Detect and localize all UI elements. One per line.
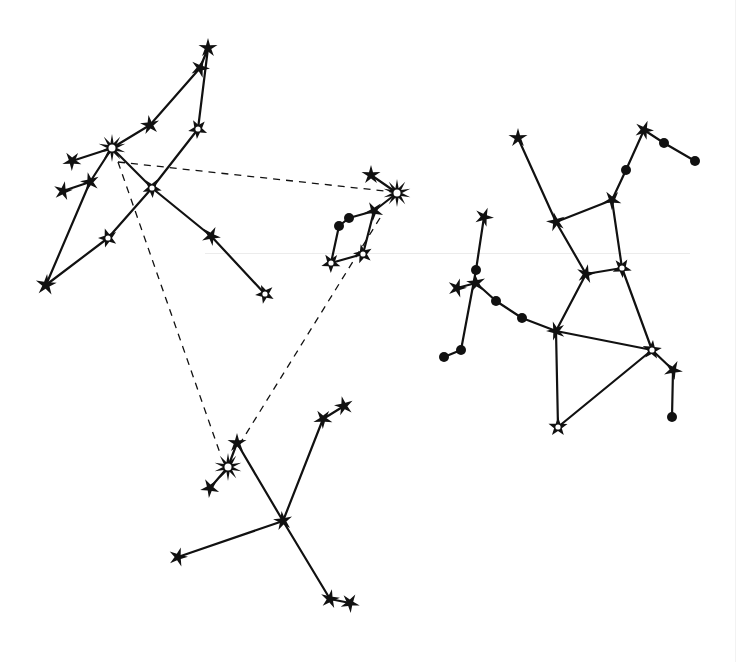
faint-star-dot-icon bbox=[667, 412, 677, 422]
variable-star-center bbox=[360, 251, 365, 256]
constellation-line bbox=[556, 274, 586, 331]
star-icon bbox=[476, 208, 495, 227]
faint-star-dot-icon bbox=[471, 265, 481, 275]
faint-star-dot-icon bbox=[491, 296, 501, 306]
faint-star-dot-icon bbox=[690, 156, 700, 166]
constellation-line bbox=[211, 236, 265, 294]
constellation-line bbox=[152, 129, 198, 188]
constellation-line bbox=[237, 443, 283, 521]
faint-star-dot-icon bbox=[439, 352, 449, 362]
star-icon bbox=[466, 273, 485, 292]
star-icon bbox=[577, 264, 596, 283]
star-icon bbox=[273, 511, 292, 530]
star-icon bbox=[313, 411, 332, 429]
variable-star-center bbox=[105, 235, 110, 240]
star-icon bbox=[664, 361, 683, 380]
constellation-line bbox=[522, 318, 556, 331]
constellation-line bbox=[556, 331, 558, 427]
faint-star-dot-icon bbox=[344, 213, 354, 223]
constellation-line bbox=[672, 370, 673, 417]
faint-star-dot-icon bbox=[517, 313, 527, 323]
constellation-line bbox=[108, 188, 152, 238]
star-chart bbox=[0, 0, 738, 662]
variable-star-center bbox=[149, 185, 154, 190]
star-icon bbox=[449, 278, 467, 297]
bright-star-center bbox=[109, 145, 116, 152]
star-icon bbox=[636, 121, 654, 140]
constellation-line bbox=[626, 130, 644, 170]
constellation-lines bbox=[46, 48, 695, 603]
constellation-line bbox=[556, 331, 652, 350]
constellation-line bbox=[112, 148, 152, 188]
faint-star-dot-icon bbox=[621, 165, 631, 175]
constellation-line bbox=[476, 217, 484, 270]
bright-star-center bbox=[225, 464, 232, 471]
constellation-line bbox=[556, 200, 612, 222]
variable-star-center bbox=[262, 291, 267, 296]
star-icon bbox=[546, 212, 565, 231]
faint-star-dot-icon bbox=[659, 138, 669, 148]
faint-star-dot-icon bbox=[456, 345, 466, 355]
bright-star-center bbox=[394, 190, 401, 197]
constellation-line bbox=[622, 268, 652, 350]
asterism-dashed-line bbox=[118, 162, 221, 456]
star-icon bbox=[334, 396, 353, 415]
star-icon bbox=[62, 153, 81, 171]
star-icon bbox=[228, 433, 247, 451]
variable-star-center bbox=[649, 347, 654, 352]
variable-star-center bbox=[555, 424, 560, 429]
star-icon bbox=[341, 595, 360, 614]
constellation-line bbox=[150, 68, 200, 125]
constellation-line bbox=[283, 521, 330, 599]
faint-star-dot-icon bbox=[334, 221, 344, 231]
constellation-line bbox=[178, 521, 283, 557]
constellation-line bbox=[152, 188, 211, 236]
constellation-line bbox=[518, 138, 556, 222]
star-icon bbox=[509, 128, 528, 146]
star-icon bbox=[170, 547, 188, 566]
dashed-asterism bbox=[118, 162, 394, 456]
variable-star-center bbox=[619, 265, 624, 270]
constellation-line bbox=[112, 125, 150, 148]
star-icon bbox=[602, 192, 621, 210]
constellation-line bbox=[664, 143, 695, 161]
star-icon bbox=[54, 181, 73, 200]
stars bbox=[36, 38, 700, 613]
constellation-line bbox=[612, 200, 622, 268]
constellation-line bbox=[283, 419, 323, 521]
star-icon bbox=[36, 274, 57, 294]
constellation-line bbox=[556, 222, 586, 274]
constellation-line bbox=[558, 350, 652, 427]
variable-star-center bbox=[328, 260, 333, 265]
variable-star-center bbox=[195, 126, 200, 131]
star-icon bbox=[321, 589, 340, 608]
